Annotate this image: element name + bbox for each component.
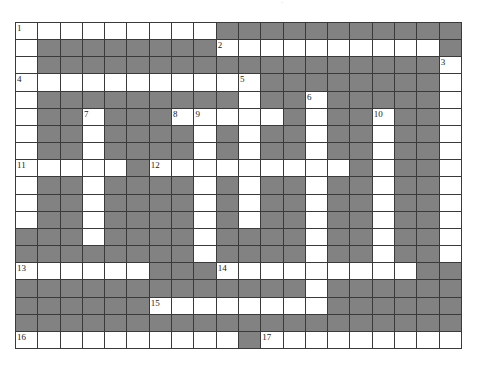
letter-input[interactable] bbox=[306, 92, 327, 108]
answer-cell[interactable] bbox=[38, 160, 60, 177]
answer-cell[interactable] bbox=[417, 332, 439, 349]
answer-cell[interactable] bbox=[306, 40, 328, 57]
letter-input[interactable] bbox=[217, 160, 238, 176]
answer-cell[interactable] bbox=[127, 263, 149, 280]
answer-cell[interactable] bbox=[306, 195, 328, 212]
letter-input[interactable] bbox=[16, 92, 37, 108]
letter-input[interactable] bbox=[239, 92, 260, 108]
answer-cell[interactable] bbox=[306, 263, 328, 280]
letter-input[interactable] bbox=[440, 126, 461, 142]
answer-cell[interactable] bbox=[172, 74, 194, 91]
letter-input[interactable] bbox=[194, 229, 215, 245]
letter-input[interactable] bbox=[194, 160, 215, 176]
letter-input[interactable] bbox=[239, 298, 260, 314]
answer-cell[interactable] bbox=[239, 212, 261, 229]
answer-cell[interactable] bbox=[105, 263, 127, 280]
letter-input[interactable] bbox=[16, 160, 37, 176]
answer-cell[interactable] bbox=[194, 177, 216, 194]
answer-cell[interactable] bbox=[306, 109, 328, 126]
answer-cell[interactable] bbox=[328, 160, 350, 177]
letter-input[interactable] bbox=[373, 246, 394, 262]
letter-input[interactable] bbox=[61, 332, 82, 348]
answer-cell[interactable] bbox=[261, 298, 283, 315]
answer-cell[interactable] bbox=[38, 74, 60, 91]
answer-cell[interactable] bbox=[239, 109, 261, 126]
answer-cell[interactable] bbox=[328, 40, 350, 57]
answer-cell[interactable] bbox=[395, 332, 417, 349]
answer-cell[interactable] bbox=[217, 332, 239, 349]
letter-input[interactable] bbox=[172, 74, 193, 90]
answer-cell[interactable] bbox=[239, 126, 261, 143]
letter-input[interactable] bbox=[395, 263, 416, 279]
letter-input[interactable] bbox=[83, 74, 104, 90]
letter-input[interactable] bbox=[194, 74, 215, 90]
answer-cell[interactable] bbox=[239, 40, 261, 57]
answer-cell[interactable] bbox=[239, 177, 261, 194]
answer-cell[interactable] bbox=[306, 332, 328, 349]
answer-cell[interactable] bbox=[440, 109, 462, 126]
answer-cell[interactable] bbox=[350, 40, 372, 57]
answer-cell[interactable] bbox=[284, 332, 306, 349]
answer-cell[interactable] bbox=[61, 74, 83, 91]
answer-cell[interactable] bbox=[16, 109, 38, 126]
letter-input[interactable] bbox=[306, 143, 327, 159]
letter-input[interactable] bbox=[373, 229, 394, 245]
letter-input[interactable] bbox=[440, 195, 461, 211]
letter-input[interactable] bbox=[194, 332, 215, 348]
letter-input[interactable] bbox=[239, 109, 260, 125]
answer-cell[interactable] bbox=[306, 280, 328, 297]
answer-cell[interactable] bbox=[16, 40, 38, 57]
letter-input[interactable] bbox=[150, 332, 171, 348]
answer-cell[interactable] bbox=[373, 160, 395, 177]
answer-cell[interactable] bbox=[395, 40, 417, 57]
letter-input[interactable] bbox=[83, 212, 104, 228]
answer-cell[interactable]: 12 bbox=[150, 160, 172, 177]
letter-input[interactable] bbox=[306, 263, 327, 279]
answer-cell[interactable] bbox=[440, 332, 462, 349]
letter-input[interactable] bbox=[373, 160, 394, 176]
letter-input[interactable] bbox=[440, 160, 461, 176]
answer-cell[interactable] bbox=[440, 74, 462, 91]
letter-input[interactable] bbox=[373, 177, 394, 193]
letter-input[interactable] bbox=[127, 332, 148, 348]
letter-input[interactable] bbox=[373, 40, 394, 56]
letter-input[interactable] bbox=[440, 109, 461, 125]
answer-cell[interactable] bbox=[217, 160, 239, 177]
answer-cell[interactable] bbox=[172, 23, 194, 40]
letter-input[interactable] bbox=[61, 74, 82, 90]
answer-cell[interactable] bbox=[417, 40, 439, 57]
answer-cell[interactable]: 1 bbox=[16, 23, 38, 40]
letter-input[interactable] bbox=[440, 212, 461, 228]
answer-cell[interactable] bbox=[306, 246, 328, 263]
answer-cell[interactable] bbox=[83, 229, 105, 246]
answer-cell[interactable] bbox=[172, 298, 194, 315]
letter-input[interactable] bbox=[38, 332, 59, 348]
answer-cell[interactable] bbox=[16, 143, 38, 160]
answer-cell[interactable] bbox=[83, 212, 105, 229]
letter-input[interactable] bbox=[127, 74, 148, 90]
answer-cell[interactable] bbox=[38, 23, 60, 40]
letter-input[interactable] bbox=[194, 195, 215, 211]
answer-cell[interactable] bbox=[150, 332, 172, 349]
letter-input[interactable] bbox=[16, 57, 37, 73]
letter-input[interactable] bbox=[306, 332, 327, 348]
answer-cell[interactable] bbox=[194, 160, 216, 177]
answer-cell[interactable] bbox=[373, 212, 395, 229]
letter-input[interactable] bbox=[395, 332, 416, 348]
letter-input[interactable] bbox=[194, 23, 215, 39]
answer-cell[interactable] bbox=[38, 263, 60, 280]
letter-input[interactable] bbox=[217, 332, 238, 348]
letter-input[interactable] bbox=[440, 57, 461, 73]
answer-cell[interactable] bbox=[194, 126, 216, 143]
letter-input[interactable] bbox=[306, 195, 327, 211]
answer-cell[interactable]: 15 bbox=[150, 298, 172, 315]
answer-cell[interactable] bbox=[440, 229, 462, 246]
letter-input[interactable] bbox=[239, 212, 260, 228]
answer-cell[interactable] bbox=[306, 298, 328, 315]
letter-input[interactable] bbox=[239, 263, 260, 279]
letter-input[interactable] bbox=[417, 332, 438, 348]
answer-cell[interactable] bbox=[440, 92, 462, 109]
letter-input[interactable] bbox=[105, 263, 126, 279]
letter-input[interactable] bbox=[172, 160, 193, 176]
answer-cell[interactable] bbox=[105, 332, 127, 349]
